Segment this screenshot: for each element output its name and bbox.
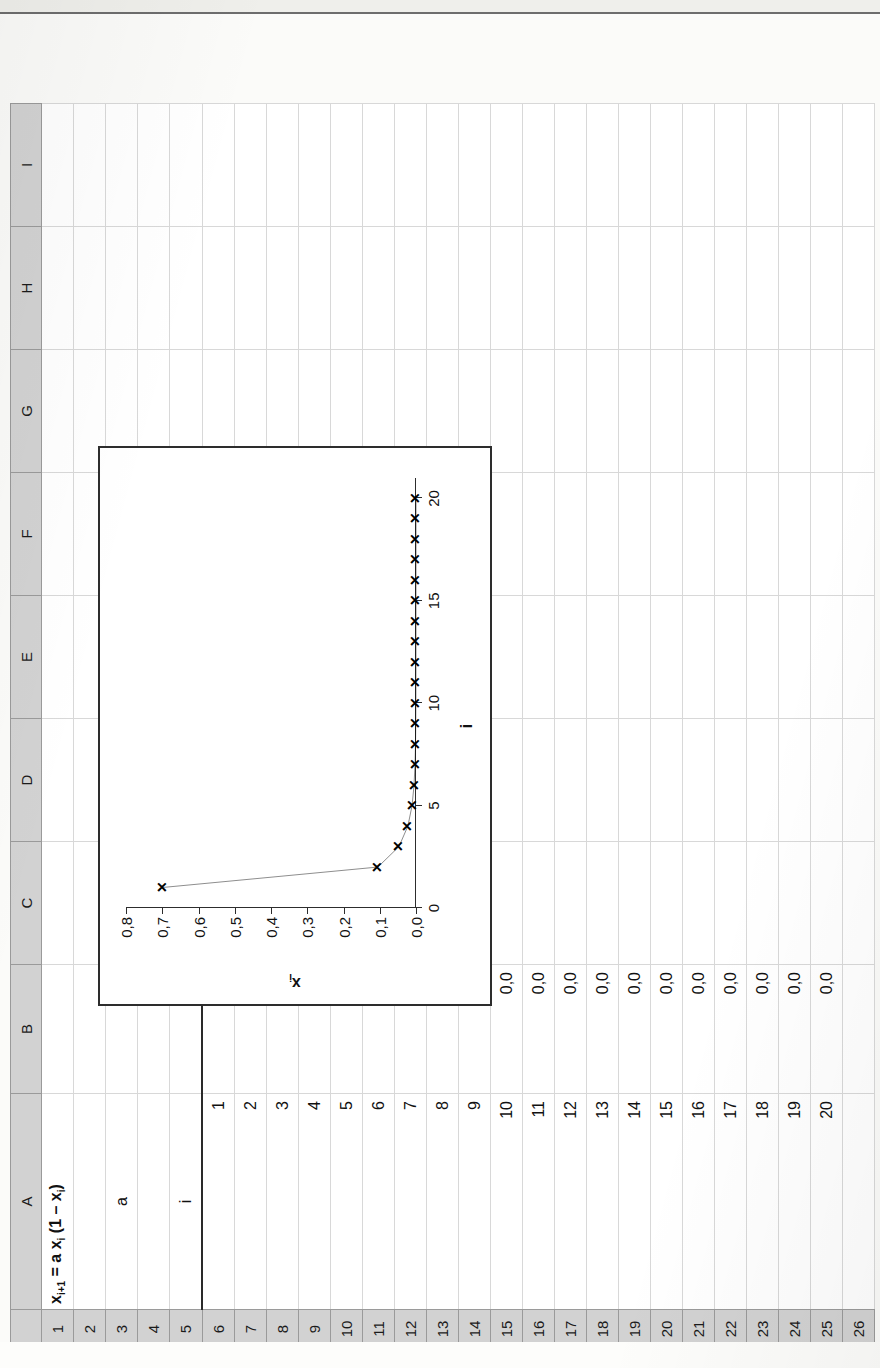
cell-H22[interactable] — [715, 227, 747, 350]
data-cell-x-14[interactable]: 0,0 — [619, 965, 651, 1094]
cell-H7[interactable] — [235, 227, 267, 350]
cell-I9[interactable] — [299, 104, 331, 227]
cell-E21[interactable] — [683, 596, 715, 719]
column-header-A[interactable]: A — [11, 1094, 42, 1310]
data-cell-i-3[interactable]: 3 — [267, 1094, 299, 1310]
data-cell-i-20[interactable]: 20 — [811, 1094, 843, 1310]
data-cell-i-10[interactable]: 10 — [491, 1094, 523, 1310]
data-cell-i-17[interactable]: 17 — [715, 1094, 747, 1310]
cell-E18[interactable] — [587, 596, 619, 719]
cell-I8[interactable] — [267, 104, 299, 227]
cell-G25[interactable] — [811, 350, 843, 473]
cell-E15[interactable] — [491, 596, 523, 719]
data-cell-i-8[interactable]: 8 — [427, 1094, 459, 1310]
data-cell-i-9[interactable]: 9 — [459, 1094, 491, 1310]
cell-H1[interactable] — [42, 227, 74, 350]
cell-A2[interactable] — [74, 1094, 106, 1310]
cell-D21[interactable] — [683, 719, 715, 842]
cell-I1[interactable] — [42, 104, 74, 227]
cell-D17[interactable] — [555, 719, 587, 842]
cell-G17[interactable] — [555, 350, 587, 473]
cell-I3[interactable] — [106, 104, 138, 227]
cell-H23[interactable] — [747, 227, 779, 350]
column-header-C[interactable]: C — [11, 842, 42, 965]
cell-G20[interactable] — [651, 350, 683, 473]
data-cell-x-16[interactable]: 0,0 — [683, 965, 715, 1094]
cell-F19[interactable] — [619, 473, 651, 596]
cell-B26[interactable] — [843, 965, 875, 1094]
cell-C24[interactable] — [779, 842, 811, 965]
cell-E26[interactable] — [843, 596, 875, 719]
data-cell-i-4[interactable]: 4 — [299, 1094, 331, 1310]
data-cell-x-12[interactable]: 0,0 — [555, 965, 587, 1094]
cell-C17[interactable] — [555, 842, 587, 965]
cell-I4[interactable] — [138, 104, 170, 227]
cell-I17[interactable] — [555, 104, 587, 227]
cell-H15[interactable] — [491, 227, 523, 350]
column-header-F[interactable]: F — [11, 473, 42, 596]
cell-E17[interactable] — [555, 596, 587, 719]
cell-G22[interactable] — [715, 350, 747, 473]
data-cell-i-18[interactable]: 18 — [747, 1094, 779, 1310]
cell-C15[interactable] — [491, 842, 523, 965]
data-cell-i-13[interactable]: 13 — [587, 1094, 619, 1310]
cell-H19[interactable] — [619, 227, 651, 350]
cell-I7[interactable] — [235, 104, 267, 227]
column-header-H[interactable]: H — [11, 227, 42, 350]
cell-H14[interactable] — [459, 227, 491, 350]
cell-F22[interactable] — [715, 473, 747, 596]
cell-D25[interactable] — [811, 719, 843, 842]
cell-F25[interactable] — [811, 473, 843, 596]
cell-A26[interactable] — [843, 1094, 875, 1310]
cell-I13[interactable] — [427, 104, 459, 227]
cell-I24[interactable] — [779, 104, 811, 227]
data-cell-i-12[interactable]: 12 — [555, 1094, 587, 1310]
cell-C21[interactable] — [683, 842, 715, 965]
data-cell-x-17[interactable]: 0,0 — [715, 965, 747, 1094]
cell-I20[interactable] — [651, 104, 683, 227]
cell-D26[interactable] — [843, 719, 875, 842]
cell-I21[interactable] — [683, 104, 715, 227]
cell-G19[interactable] — [619, 350, 651, 473]
data-cell-i-5[interactable]: 5 — [331, 1094, 363, 1310]
param-label-cell-a3[interactable]: a — [106, 1094, 138, 1310]
data-cell-i-19[interactable]: 19 — [779, 1094, 811, 1310]
column-header-G[interactable]: G — [11, 350, 42, 473]
cell-H17[interactable] — [555, 227, 587, 350]
cell-C16[interactable] — [523, 842, 555, 965]
data-cell-i-2[interactable]: 2 — [235, 1094, 267, 1310]
cell-F21[interactable] — [683, 473, 715, 596]
cell-D1[interactable] — [42, 719, 74, 842]
cell-H26[interactable] — [843, 227, 875, 350]
cell-H25[interactable] — [811, 227, 843, 350]
cell-E22[interactable] — [715, 596, 747, 719]
column-header-B[interactable]: B — [11, 965, 42, 1094]
cell-F18[interactable] — [587, 473, 619, 596]
data-cell-i-11[interactable]: 11 — [523, 1094, 555, 1310]
cell-F15[interactable] — [491, 473, 523, 596]
data-cell-x-19[interactable]: 0,0 — [779, 965, 811, 1094]
cell-F20[interactable] — [651, 473, 683, 596]
data-cell-x-10[interactable]: 0,0 — [491, 965, 523, 1094]
cell-H5[interactable] — [170, 227, 203, 350]
cell-D15[interactable] — [491, 719, 523, 842]
cell-I23[interactable] — [747, 104, 779, 227]
column-header-E[interactable]: E — [11, 596, 42, 719]
cell-H4[interactable] — [138, 227, 170, 350]
cell-E20[interactable] — [651, 596, 683, 719]
cell-I18[interactable] — [587, 104, 619, 227]
cell-G21[interactable] — [683, 350, 715, 473]
cell-E24[interactable] — [779, 596, 811, 719]
cell-E1[interactable] — [42, 596, 74, 719]
cell-F23[interactable] — [747, 473, 779, 596]
cell-I11[interactable] — [363, 104, 395, 227]
cell-G23[interactable] — [747, 350, 779, 473]
cell-H18[interactable] — [587, 227, 619, 350]
cell-I16[interactable] — [523, 104, 555, 227]
cell-I6[interactable] — [202, 104, 235, 227]
cell-H11[interactable] — [363, 227, 395, 350]
cell-G26[interactable] — [843, 350, 875, 473]
cell-F16[interactable] — [523, 473, 555, 596]
data-cell-i-6[interactable]: 6 — [363, 1094, 395, 1310]
cell-E19[interactable] — [619, 596, 651, 719]
